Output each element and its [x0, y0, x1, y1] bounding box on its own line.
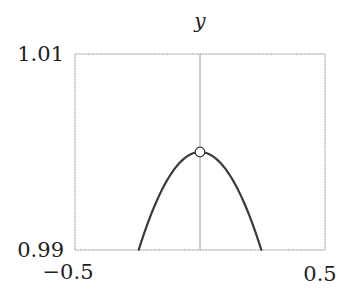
y-tick-bottom: 0.99 — [17, 238, 64, 262]
x-tick-left: −0.5 — [43, 260, 94, 284]
y-tick-top: 1.01 — [17, 42, 64, 66]
x-tick-right: 0.5 — [303, 262, 336, 286]
open-circle-marker — [195, 147, 205, 157]
y-axis-title: y — [193, 9, 206, 33]
chart: y 1.01 0.99 −0.5 0.5 — [0, 0, 346, 292]
